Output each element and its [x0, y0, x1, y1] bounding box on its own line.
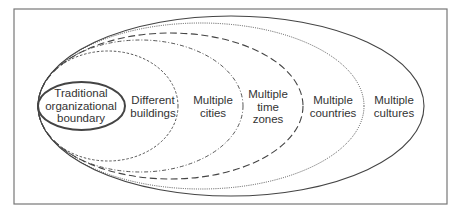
- label-line: Different: [130, 94, 175, 107]
- label-line: organizational: [45, 100, 117, 113]
- label-traditional: Traditional organizational boundary: [45, 87, 117, 125]
- label-line: cultures: [374, 106, 414, 119]
- label-cultures: Multiple cultures: [374, 94, 414, 119]
- nested-boundary-diagram: Multiple cultures Multiple countries Mul…: [0, 0, 464, 212]
- label-line: Traditional: [45, 87, 117, 100]
- label-line: zones: [248, 113, 288, 126]
- label-cities: Multiple cities: [193, 94, 233, 119]
- label-line: Multiple: [193, 94, 233, 107]
- label-line: Multiple: [310, 94, 357, 107]
- label-buildings: Different buildings: [130, 94, 175, 119]
- label-line: buildings: [130, 106, 175, 119]
- label-countries: Multiple countries: [310, 94, 357, 119]
- label-line: countries: [310, 106, 357, 119]
- label-time-zones: Multiple time zones: [248, 88, 288, 126]
- label-line: boundary: [45, 112, 117, 125]
- label-line: Multiple: [374, 94, 414, 107]
- label-line: Multiple: [248, 88, 288, 101]
- label-line: time: [248, 101, 288, 114]
- label-line: cities: [193, 106, 233, 119]
